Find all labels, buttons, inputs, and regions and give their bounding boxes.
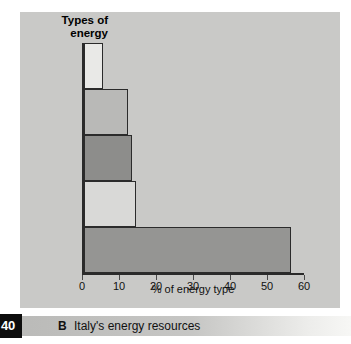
bar <box>84 89 128 135</box>
chart-title: Types of energy <box>22 14 108 40</box>
caption-text: Italy's energy resources <box>74 319 200 333</box>
bar <box>84 43 103 89</box>
caption-letter: B <box>58 319 67 333</box>
page-number: 40 <box>0 314 22 338</box>
bar <box>84 181 136 227</box>
plot-area: Nuclear and geothermalNatural gasHydroel… <box>82 43 304 275</box>
bar <box>84 227 291 273</box>
bar <box>84 135 132 181</box>
x-axis-label: % of energy type <box>82 283 304 295</box>
